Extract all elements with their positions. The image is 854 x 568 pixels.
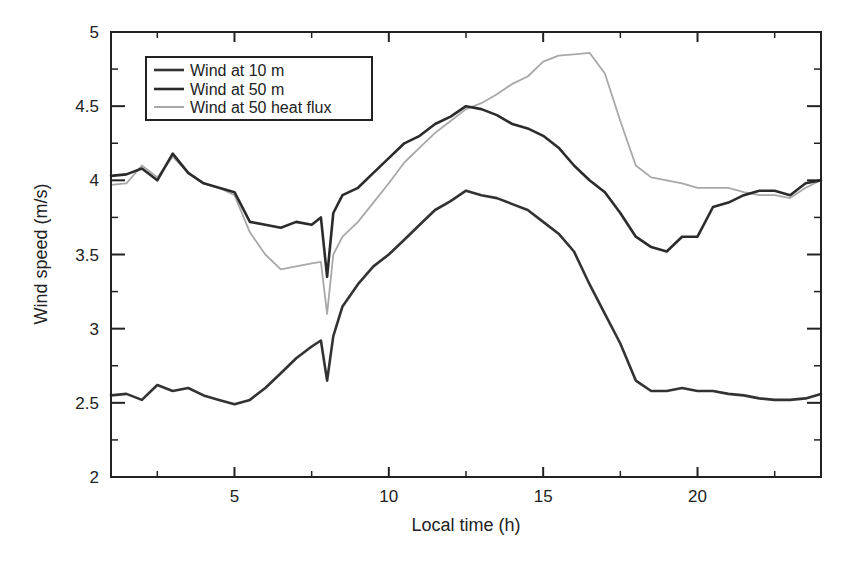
y-tick-label: 3.5 bbox=[75, 246, 99, 265]
series-line-0 bbox=[111, 191, 821, 405]
x-tick-label: 15 bbox=[534, 487, 553, 506]
x-tick-label: 10 bbox=[379, 487, 398, 506]
x-axis-label: Local time (h) bbox=[411, 515, 520, 535]
y-tick-label: 5 bbox=[90, 23, 99, 42]
legend-label-10m: Wind at 10 m bbox=[190, 62, 284, 79]
legend-label-heat-flux: Wind at 50 heat flux bbox=[190, 99, 331, 116]
y-tick-label: 2.5 bbox=[75, 394, 99, 413]
y-tick-label: 4.5 bbox=[75, 97, 99, 116]
legend: Wind at 10 m Wind at 50 m Wind at 50 hea… bbox=[146, 57, 372, 120]
y-tick-label: 3 bbox=[90, 320, 99, 339]
line-chart: 510152022.533.544.55 Wind at 10 m Wind a… bbox=[0, 0, 854, 568]
y-tick-label: 2 bbox=[90, 468, 99, 487]
legend-label-50m: Wind at 50 m bbox=[190, 81, 284, 98]
y-axis-label: Wind speed (m/s) bbox=[31, 183, 51, 324]
x-tick-label: 5 bbox=[230, 487, 239, 506]
y-tick-label: 4 bbox=[90, 171, 99, 190]
x-tick-label: 20 bbox=[688, 487, 707, 506]
